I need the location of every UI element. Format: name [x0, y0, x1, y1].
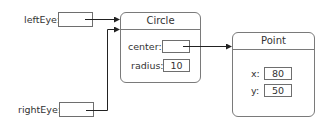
reference-arrows	[0, 0, 329, 126]
rightEye-arrow	[86, 30, 119, 111]
